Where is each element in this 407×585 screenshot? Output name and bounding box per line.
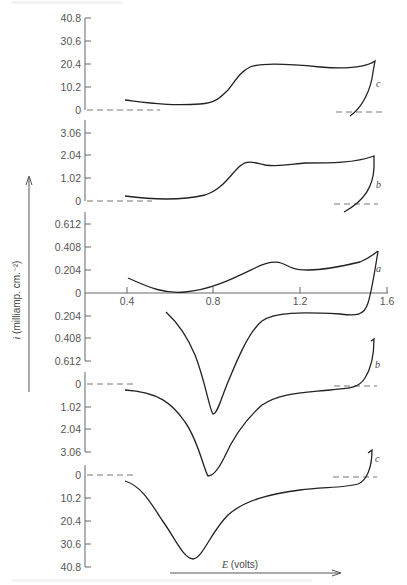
y-tick-label: 30.6	[61, 538, 82, 550]
y-tick-label: 0	[75, 195, 81, 207]
curve-c-cathodic	[125, 450, 372, 559]
y-tick-label: 1.02	[61, 172, 82, 184]
curve-label-c: c	[376, 78, 381, 89]
x-tick-label: 1.2	[293, 295, 308, 307]
y-tick-label: 0.408	[55, 241, 81, 253]
y-tick-label: 0.612	[55, 355, 81, 367]
curve-label-b: b	[375, 359, 380, 370]
curve-letters: c b a b c	[375, 78, 381, 464]
x-axis-title-var: E	[221, 559, 228, 570]
y-axis-title-unit: (milliamp. cm.⁻²)	[11, 261, 22, 337]
x-tick-labels: 0.4 0.8 1.2 1.6	[120, 295, 395, 307]
y-tick-label: 2.04	[61, 423, 82, 435]
curve-label-c: c	[375, 453, 380, 464]
y-tick-label: 0	[75, 378, 81, 390]
y-tick-label: 3.06	[61, 127, 82, 139]
curve-a-anodic	[128, 251, 378, 292]
curves	[125, 61, 378, 559]
curve-c-anodic	[125, 61, 375, 116]
x-tick-label: 1.6	[380, 295, 395, 307]
y-tick-label: 40.8	[61, 12, 82, 24]
y-tick-label: 0	[75, 287, 81, 299]
x-axis	[85, 287, 388, 293]
curve-b-cathodic	[125, 339, 374, 476]
y-tick-label: 30.6	[61, 35, 82, 47]
y-tick-label: 0.408	[55, 332, 81, 344]
curve-label-a: a	[376, 263, 381, 274]
y-tick-label: 1.02	[61, 401, 82, 413]
x-axis-title: E (volts)	[221, 559, 258, 570]
y-tick-label: 2.04	[61, 149, 82, 161]
y-tick-label: 0	[75, 469, 81, 481]
y-tick-label: 0.204	[55, 310, 81, 322]
curve-a-cathodic	[166, 251, 378, 414]
x-tick-label: 0.8	[206, 295, 221, 307]
y-axis-title: i (milliamp. cm.⁻²)	[11, 261, 22, 340]
y-tick-label: 0.204	[55, 264, 81, 276]
y-tick-label: 0	[75, 104, 81, 116]
y-tick-label: 10.2	[61, 81, 82, 93]
voltammogram-figure: 40.8 30.6 20.4 10.2 0 3.06 2.04 1.02 0 0…	[0, 0, 407, 585]
y-tick-label: 20.4	[61, 58, 82, 70]
y-axis-arrow	[26, 176, 32, 392]
y-tick-labels: 40.8 30.6 20.4 10.2 0 3.06 2.04 1.02 0 0…	[55, 12, 81, 573]
curve-label-b: b	[376, 179, 381, 190]
y-tick-label: 0.612	[55, 218, 81, 230]
figure-caption-faint	[12, 579, 312, 582]
y-tick-label: 20.4	[61, 515, 82, 527]
x-axis-title-unit: (volts)	[228, 559, 258, 570]
x-axis-arrow	[170, 570, 341, 576]
x-tick-label: 0.4	[120, 295, 135, 307]
y-tick-label: 3.06	[61, 446, 82, 458]
y-tick-label: 10.2	[61, 492, 82, 504]
y-tick-label: 40.8	[61, 561, 82, 573]
